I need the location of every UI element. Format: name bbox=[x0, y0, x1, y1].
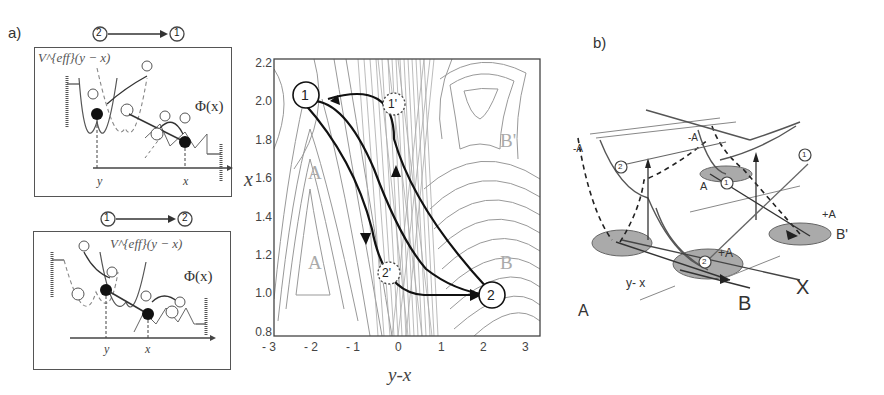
y-tick: 2.2 bbox=[255, 56, 272, 70]
panel-b-label-minus-a: -A bbox=[573, 143, 583, 154]
contour-plot: A A B' B bbox=[274, 59, 540, 336]
transition-from-label: 1 bbox=[104, 212, 110, 223]
transition-1-to-2-header bbox=[98, 209, 188, 229]
transition-to-label: 1 bbox=[174, 27, 180, 38]
y-tick: 2.0 bbox=[255, 94, 272, 108]
panel-b-label-x: X bbox=[796, 276, 809, 299]
region-label-a-upper: A bbox=[308, 162, 322, 183]
panel-b-marker-1: 1 bbox=[724, 178, 728, 187]
x-tick: 3 bbox=[522, 340, 529, 354]
transition-from-label: 2 bbox=[96, 27, 102, 38]
panel-b-marker-1: 1 bbox=[802, 150, 806, 159]
x-tick: - 1 bbox=[346, 340, 360, 354]
y-tick: 1.2 bbox=[255, 248, 272, 262]
x-tick: 0 bbox=[395, 340, 402, 354]
panel-b-label-b-prime: B' bbox=[836, 226, 848, 242]
panel-b-label-y-minus-x: y- x bbox=[626, 276, 645, 290]
panel-b-label-plus-a: +A bbox=[718, 246, 733, 260]
transition-2-to-1-header bbox=[90, 24, 180, 44]
region-label-b: B bbox=[500, 252, 513, 273]
x-tick: - 2 bbox=[304, 340, 318, 354]
schematic-bottom-box: V^{eff}(y − x) Φ(x) y x bbox=[33, 231, 231, 370]
region-label-b-prime: B' bbox=[500, 130, 516, 151]
x-tick: 2 bbox=[480, 340, 487, 354]
schematic-top-drawing bbox=[35, 48, 231, 196]
panel-b-label-b: B bbox=[738, 292, 751, 315]
y-tick: 1.6 bbox=[255, 171, 272, 185]
x-tick-labels: - 3 - 2 - 1 0 1 2 3 bbox=[258, 340, 538, 356]
transition-to-label: 2 bbox=[182, 212, 188, 223]
y-tick-labels: 2.2 2.0 1.8 1.6 1.4 1.2 1.0 0.8 bbox=[246, 54, 272, 344]
panel-b-label-a-small: A bbox=[700, 180, 707, 192]
state-2-prime-label: 2' bbox=[382, 266, 391, 280]
y-tick: 0.8 bbox=[255, 325, 272, 339]
panel-b-marker-2: 2 bbox=[618, 162, 622, 171]
state-2-label: 2 bbox=[487, 287, 495, 303]
x-tick: 1 bbox=[438, 340, 445, 354]
schematic-top-box: V^{eff}(y − x) Φ(x) y x bbox=[34, 47, 232, 197]
panel-a-label: a) bbox=[8, 24, 21, 41]
panel-b-label: b) bbox=[593, 34, 606, 51]
region-label-a-lower: A bbox=[308, 252, 322, 273]
state-1-prime-label: 1' bbox=[388, 97, 397, 111]
schematic-bottom-drawing bbox=[34, 232, 230, 369]
state-1-label: 1 bbox=[301, 87, 309, 103]
x-tick: - 3 bbox=[262, 340, 276, 354]
y-tick: 1.4 bbox=[255, 210, 272, 224]
y-tick: 1.8 bbox=[255, 133, 272, 147]
panel-b-label-minus-a: -A bbox=[688, 132, 698, 143]
x-axis-title: y-x bbox=[388, 364, 411, 386]
panel-b-diagram bbox=[560, 110, 880, 330]
panel-b-marker-2: 2 bbox=[702, 257, 706, 266]
y-tick: 1.0 bbox=[255, 286, 272, 300]
panel-b-label-plus-a: +A bbox=[822, 208, 836, 220]
panel-b-label-a: A bbox=[578, 302, 589, 320]
